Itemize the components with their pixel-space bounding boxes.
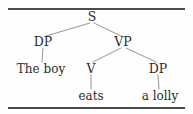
tree-node-v: V: [86, 63, 95, 76]
tree-edge-dp1-w1: [42, 48, 43, 62]
tree-edge-s-dp1: [46, 23, 90, 36]
tree-leaf-w2: eats: [78, 90, 103, 102]
tree-node-dp1: DP: [34, 36, 52, 49]
syntax-tree-figure: SDPVPThe boyVDPeatsa lolly: [0, 0, 193, 114]
tree-node-s: S: [88, 11, 97, 24]
tree-leaf-w3: a lolly: [142, 90, 179, 102]
tree-edge-dp2-w3: [158, 75, 159, 89]
bottom-horizontal-rule: [8, 107, 185, 109]
tree-edge-vp-v: [93, 48, 121, 62]
tree-node-dp2: DP: [149, 63, 167, 76]
tree-node-vp: VP: [114, 36, 131, 49]
tree-leaf-w1: The boy: [17, 63, 65, 75]
